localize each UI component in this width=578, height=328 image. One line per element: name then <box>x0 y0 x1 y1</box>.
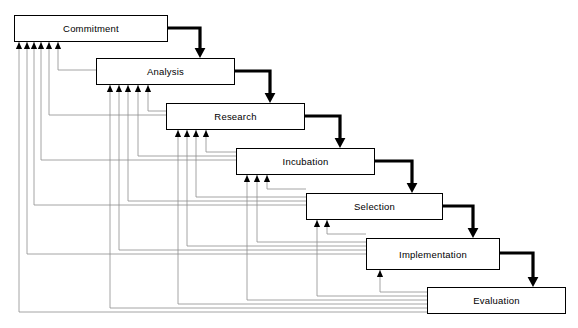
arrowhead-flow-implementation <box>468 228 479 238</box>
arrowhead-incubation-2 <box>254 175 260 182</box>
waterfall-diagram: Commitment Analysis Research Incubation … <box>0 0 578 328</box>
arrowhead-research-3 <box>193 130 199 137</box>
arrowhead-commitment-5 <box>46 42 52 49</box>
feedback-incubation-to-research <box>206 130 236 152</box>
arrowhead-commitment-3 <box>31 42 37 49</box>
feedback-selection-to-incubation <box>267 175 306 189</box>
phase-label-selection: Selection <box>354 201 395 212</box>
arrowhead-selection-2 <box>324 220 330 227</box>
phase-label-commitment: Commitment <box>63 23 119 34</box>
phase-label-research: Research <box>214 111 256 122</box>
arrowhead-commitment-2 <box>24 42 30 49</box>
arrowhead-analysis-2 <box>116 85 122 92</box>
phase-box-selection[interactable]: Selection <box>306 193 443 220</box>
arrowhead-research-2 <box>184 130 190 137</box>
feedback-evaluation-to-implementation <box>380 270 427 292</box>
flow-research-to-incubation <box>305 116 340 141</box>
flow-commitment-to-analysis <box>168 28 200 51</box>
feedback-analysis-to-commitment <box>58 42 96 70</box>
arrowhead-research-1 <box>175 130 181 137</box>
flow-analysis-to-research <box>235 71 270 96</box>
phase-box-analysis[interactable]: Analysis <box>96 58 235 85</box>
arrowhead-implementation-1 <box>377 270 383 277</box>
arrowhead-analysis-4 <box>135 85 141 92</box>
arrowhead-commitment-4 <box>38 42 44 49</box>
phase-label-analysis: Analysis <box>147 66 184 77</box>
arrowhead-flow-research <box>265 93 276 103</box>
phase-box-research[interactable]: Research <box>166 103 305 130</box>
phase-box-incubation[interactable]: Incubation <box>236 148 375 175</box>
phase-box-implementation[interactable]: Implementation <box>366 238 500 270</box>
phase-label-implementation: Implementation <box>399 249 467 260</box>
arrowhead-flow-analysis <box>195 48 206 58</box>
flow-implementation-to-evaluation <box>500 253 533 280</box>
arrowhead-flow-selection <box>407 183 418 193</box>
flow-selection-to-implementation <box>443 206 473 231</box>
arrowhead-analysis-3 <box>125 85 131 92</box>
arrowhead-incubation-1 <box>244 175 250 182</box>
arrowhead-incubation-3 <box>264 175 270 182</box>
arrowhead-analysis-1 <box>107 85 113 92</box>
phase-box-commitment[interactable]: Commitment <box>14 15 168 42</box>
feedback-implementation-to-selection <box>327 220 366 234</box>
arrowhead-research-4 <box>203 130 209 137</box>
arrowhead-flow-evaluation <box>528 277 539 287</box>
arrowhead-selection-1 <box>314 220 320 227</box>
flow-incubation-to-selection <box>375 161 412 186</box>
arrowhead-analysis-5 <box>145 85 151 92</box>
feedback-research-to-analysis <box>148 85 166 111</box>
arrowhead-commitment-1 <box>16 42 22 49</box>
arrowhead-commitment-6 <box>55 42 61 49</box>
arrowhead-flow-incubation <box>335 138 346 148</box>
phase-label-evaluation: Evaluation <box>473 295 519 306</box>
phase-box-evaluation[interactable]: Evaluation <box>427 287 566 314</box>
phase-label-incubation: Incubation <box>283 156 329 167</box>
